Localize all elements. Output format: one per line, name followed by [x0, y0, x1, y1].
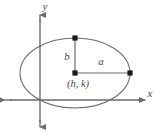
right-covertex-point-marker [127, 70, 132, 75]
ellipse-diagram-svg: x y a b (h, k) [0, 0, 160, 137]
center-point-marker [72, 70, 77, 75]
top-covertex-point-marker [72, 35, 77, 40]
semi-minor-label: b [64, 50, 70, 62]
x-axis-label: x [147, 87, 153, 99]
ellipse-figure: x y a b (h, k) [0, 0, 160, 137]
semi-major-label: a [98, 55, 104, 67]
center-point-label: (h, k) [67, 78, 90, 90]
y-axis-label: y [42, 0, 48, 12]
